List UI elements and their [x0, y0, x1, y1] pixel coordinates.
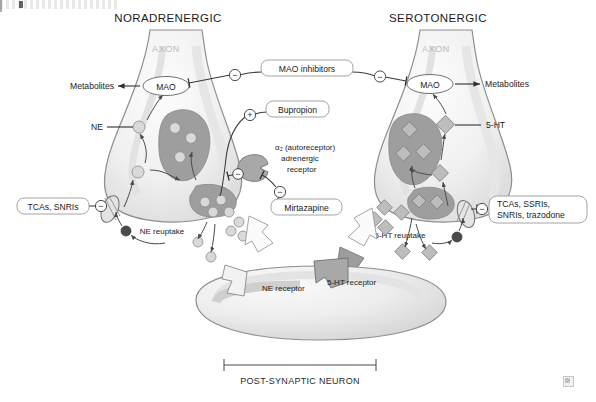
inhibit-sign-mao-left: −	[232, 70, 237, 80]
bupropion-box[interactable]: Bupropion	[266, 101, 329, 117]
noradrenergic-terminal: AXON MAO Metabolites NE	[70, 30, 242, 222]
ne-receptor-label: NE receptor	[262, 284, 305, 293]
bupropion-label: Bupropion	[278, 105, 317, 115]
serotonergic-terminal: AXON MAO Metabolites 5-HT	[374, 30, 528, 222]
tcas-ssris-snris-trazodone-box[interactable]: TCAs, SSRIs, SNRIs, trazodone	[489, 196, 587, 223]
vesicle	[170, 123, 181, 134]
ne-molecule	[226, 226, 236, 236]
ne-molecule	[132, 166, 144, 178]
title-serotonergic: SEROTONERGIC	[389, 12, 487, 24]
mao-label-right: MAO	[420, 80, 440, 90]
inhibit-sign-ssri-group: −	[479, 204, 484, 214]
tcas-snris-box[interactable]: TCAs, SNRIs	[17, 198, 89, 214]
ne-release-bulk-arrow	[245, 216, 273, 252]
5ht-cleft-to-transporter-arrow	[432, 240, 452, 244]
ne-molecule	[133, 121, 145, 133]
ne-molecule	[224, 207, 234, 217]
5ht-label: 5-HT	[486, 120, 506, 130]
figure-canvas: NORADRENERGIC SEROTONERGIC AXON MAO Meta…	[0, 0, 596, 402]
ne-molecule	[206, 252, 216, 262]
ssri-group-label-line2: SNRIs, trazodone	[497, 210, 565, 220]
mirtazapine-label: Mirtazapine	[284, 203, 329, 213]
metabolites-label-left: Metabolites	[70, 81, 114, 91]
metabolites-label-right: Metabolites	[485, 79, 529, 89]
serotonin-molecule	[422, 245, 438, 261]
tcas-snris-label: TCAs, SNRIs	[27, 202, 78, 212]
ne-reuptake-label: NE reuptake	[140, 227, 185, 236]
ne-diffusion-arrow	[211, 224, 215, 252]
ne-label: NE	[91, 122, 103, 132]
ne-release-arrow	[198, 222, 207, 239]
inhibit-sign-mao-right: −	[377, 72, 382, 82]
alpha2-label-line2: adrenergic	[281, 154, 319, 163]
mirtazapine-box[interactable]: Mirtazapine	[271, 199, 342, 215]
tcas-snris-connector: −	[89, 200, 107, 211]
mao-inhibitors-label: MAO inhibitors	[279, 64, 335, 74]
inhibit-sign-tcas-snris: −	[98, 201, 103, 211]
ne-bound-to-transporter	[121, 226, 131, 236]
axon-label-right: AXON	[422, 44, 450, 54]
5ht-bound-to-transporter	[452, 232, 462, 242]
5ht-receptor-label: 5-HT receptor	[327, 278, 377, 287]
inhibit-sign-mirtazapine: −	[277, 187, 282, 197]
title-noradrenergic: NORADRENERGIC	[114, 12, 221, 24]
ne-cleft-to-transporter-arrow	[131, 235, 165, 244]
alpha2-label-line1: α₂ (autoreceptor)	[275, 143, 336, 152]
stimulate-sign-bupropion: +	[247, 110, 252, 120]
axon-label-left: AXON	[152, 44, 180, 54]
post-synaptic-bracket	[224, 359, 376, 371]
mao-label-left: MAO	[156, 82, 176, 92]
inhibit-sign-autoreceptor: −	[235, 169, 240, 179]
serotonin-molecule	[395, 244, 411, 260]
ne-molecule	[234, 217, 244, 227]
post-synaptic-neuron-label: POST-SYNAPTIC NEURON	[240, 376, 360, 386]
vesicle	[200, 197, 210, 207]
ssri-group-label-line1: TCAs, SSRIs,	[497, 199, 550, 209]
mao-inhibitors-box[interactable]: MAO inhibitors	[261, 60, 353, 76]
vesicle	[175, 152, 186, 163]
post-synaptic-neuron: NE receptor 5-HT receptor	[196, 258, 446, 340]
alpha2-label-line3: receptor	[287, 165, 317, 174]
neurotransmission-diagram: NORADRENERGIC SEROTONERGIC AXON MAO Meta…	[0, 0, 596, 402]
vesicle	[208, 207, 218, 217]
vesicle	[186, 133, 197, 144]
5ht-release-bulk-arrow	[348, 208, 377, 246]
vesicle	[216, 195, 226, 205]
